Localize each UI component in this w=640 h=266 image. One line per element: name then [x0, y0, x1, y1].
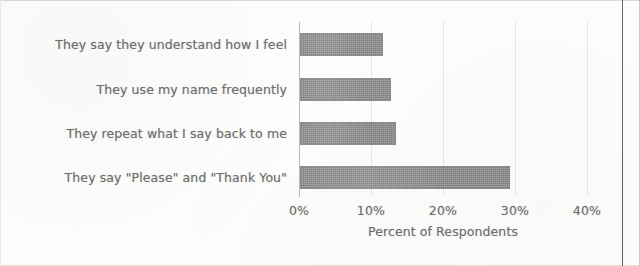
bar — [300, 122, 396, 145]
category-label: They repeat what I say back to me — [66, 126, 287, 141]
chart-page: They say they understand how I feelThey … — [0, 0, 640, 266]
category-label: They say "Please" and "Thank You" — [65, 170, 287, 185]
gridline-30% — [515, 22, 516, 196]
bar — [300, 33, 383, 56]
x-tick-label: 40% — [573, 203, 601, 218]
x-axis-title: Percent of Respondents — [299, 224, 587, 239]
category-label: They say they understand how I feel — [55, 37, 287, 52]
bar — [300, 78, 391, 101]
x-tick-label: 0% — [289, 203, 309, 218]
category-label: They use my name frequently — [96, 82, 287, 97]
page-border-top — [0, 0, 640, 1]
plot-area — [299, 22, 587, 196]
x-tick-label: 10% — [357, 203, 385, 218]
x-tick-label: 30% — [501, 203, 529, 218]
page-border-left — [0, 0, 1, 266]
bar — [300, 166, 510, 189]
page-border-right — [622, 0, 623, 266]
gridline-40% — [587, 22, 588, 196]
x-tick-label: 20% — [429, 203, 457, 218]
